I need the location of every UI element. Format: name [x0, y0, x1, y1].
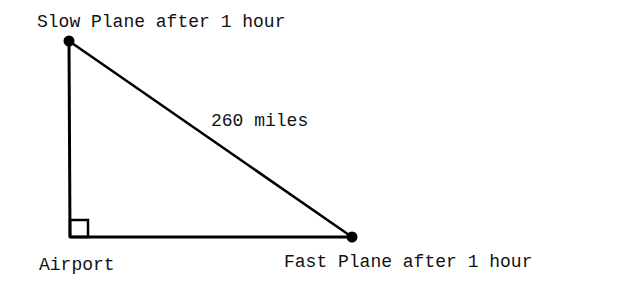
slow-plane-point	[64, 36, 75, 47]
fast-plane-point	[347, 232, 358, 243]
airport-label: Airport	[39, 256, 115, 274]
fast-plane-label: Fast Plane after 1 hour	[284, 253, 532, 271]
hypotenuse	[69, 41, 352, 237]
vertical-leg	[69, 41, 70, 237]
slow-plane-label: Slow Plane after 1 hour	[37, 13, 285, 31]
distance-label: 260 miles	[211, 112, 308, 130]
right-angle-marker	[70, 220, 88, 237]
